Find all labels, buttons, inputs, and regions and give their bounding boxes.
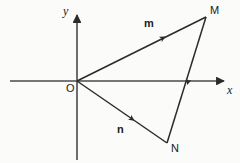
point-label-n: N: [171, 143, 179, 154]
y-axis-label: y: [63, 5, 68, 17]
vector-label-m: m: [144, 18, 154, 29]
segment-mn-line: [167, 17, 206, 143]
vector-m-line: [77, 17, 206, 81]
vector-diagram-figure: y x O M N m n: [0, 0, 240, 163]
point-label-m: M: [210, 5, 219, 16]
diagram-svg: [0, 0, 240, 163]
vector-label-n: n: [117, 124, 124, 135]
origin-label: O: [66, 83, 75, 94]
x-axis-label: x: [227, 84, 232, 96]
